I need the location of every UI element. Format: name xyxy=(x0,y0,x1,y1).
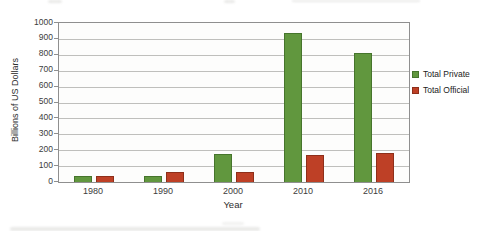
y-tick-label-100: 100 xyxy=(19,160,53,171)
y-tick-label-700: 700 xyxy=(19,64,53,75)
y-tick-label-900: 900 xyxy=(19,32,53,43)
y-tick-mark-900 xyxy=(54,38,58,39)
y-tick-mark-1000 xyxy=(54,22,58,23)
bar-2010-total-official xyxy=(306,155,324,182)
bar-1990-total-official xyxy=(166,172,184,182)
y-tick-mark-700 xyxy=(54,70,58,71)
y-tick-mark-600 xyxy=(54,86,58,87)
x-tick-label-2010: 2010 xyxy=(281,186,325,196)
bar-2010-total-private xyxy=(284,33,302,182)
bar-1980-total-official xyxy=(96,176,114,182)
y-tick-label-400: 400 xyxy=(19,112,53,123)
cropped-text-artifact-top-left xyxy=(48,0,62,3)
y-tick-label-200: 200 xyxy=(19,144,53,155)
y-tick-label-800: 800 xyxy=(19,48,53,59)
legend-item-total-private: Total Private xyxy=(412,69,470,79)
bar-2016-total-official xyxy=(376,153,394,182)
bar-1990-total-private xyxy=(144,176,162,182)
y-tick-mark-200 xyxy=(54,149,58,150)
y-tick-label-300: 300 xyxy=(19,128,53,139)
y-tick-label-600: 600 xyxy=(19,80,53,91)
y-tick-label-500: 500 xyxy=(19,96,53,107)
y-tick-mark-400 xyxy=(54,117,58,118)
y-tick-mark-300 xyxy=(54,133,58,134)
legend-swatch-icon xyxy=(412,87,419,94)
y-tick-mark-500 xyxy=(54,102,58,103)
y-tick-label-1000: 1000 xyxy=(19,17,53,28)
bar-2000-total-official xyxy=(236,172,254,182)
legend-item-total-official: Total Official xyxy=(412,85,470,95)
y-tick-mark-800 xyxy=(54,54,58,55)
x-tick-label-2016: 2016 xyxy=(351,186,395,196)
x-tick-label-1990: 1990 xyxy=(141,186,185,196)
x-tick-label-2000: 2000 xyxy=(211,186,255,196)
x-tick-label-1980: 1980 xyxy=(71,186,115,196)
gridline-900 xyxy=(59,39,409,40)
cropped-text-artifact-top-mid xyxy=(224,0,235,3)
cropped-text-artifact-bottom xyxy=(10,227,260,231)
legend-label: Total Official xyxy=(423,85,469,95)
cropped-text-artifact-top-right xyxy=(292,0,420,2)
y-tick-mark-0 xyxy=(54,181,58,182)
bar-1980-total-private xyxy=(74,176,92,182)
legend-swatch-icon xyxy=(412,71,419,78)
bar-2016-total-private xyxy=(354,53,372,182)
y-tick-label-0: 0 xyxy=(19,176,53,187)
x-axis-title: Year xyxy=(58,199,408,210)
cropped-text-artifact-bottom-mid xyxy=(222,222,244,225)
bar-2000-total-private xyxy=(214,154,232,182)
legend-label: Total Private xyxy=(423,69,470,79)
chart-legend: Total PrivateTotal Official xyxy=(412,69,470,95)
bar-chart-figure: Billions of US Dollars 01002003004005006… xyxy=(0,0,494,231)
y-tick-mark-100 xyxy=(54,165,58,166)
plot-area xyxy=(58,22,410,183)
